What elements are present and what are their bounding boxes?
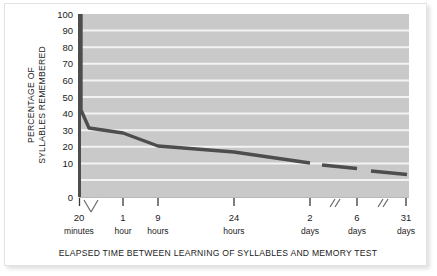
figure-container: 100 90 80 70 60 50 40 30 20 10 0 <box>0 0 437 276</box>
y-tick-label: 70 <box>62 58 73 69</box>
x-tick-values: 20 1 9 24 2 6 31 <box>74 212 412 223</box>
y-tick-label: 50 <box>62 92 73 103</box>
y-tick-labels: 100 90 80 70 60 50 40 30 20 10 0 <box>57 9 73 203</box>
x-tick-value: 6 <box>354 212 359 223</box>
x-tick-unit: hours <box>147 226 168 236</box>
y-tick-label: 60 <box>62 75 73 86</box>
axis-break-icon-2days-6days <box>330 199 340 207</box>
x-tick-unit: minutes <box>64 226 94 236</box>
x-tick-unit: days <box>348 226 366 236</box>
y-tick-label: 80 <box>62 42 73 53</box>
forgetting-curve-chart: 100 90 80 70 60 50 40 30 20 10 0 <box>0 0 437 276</box>
x-tick-value: 20 <box>74 212 85 223</box>
y-tick-label: 40 <box>62 108 73 119</box>
axis-break-marks <box>84 199 388 212</box>
x-tick-value: 2 <box>307 212 312 223</box>
x-tick-value: 9 <box>155 212 160 223</box>
x-tick-unit: days <box>301 226 319 236</box>
y-axis-title: PERCENTAGE OF SYLLABLES REMEMBERED <box>26 46 47 164</box>
y-tick-label: 10 <box>62 158 73 169</box>
y-tick-label: 90 <box>62 25 73 36</box>
x-tick-value: 24 <box>229 212 240 223</box>
x-tick-unit: hours <box>223 226 244 236</box>
y-tick-label: 30 <box>62 125 73 136</box>
x-tick-value: 1 <box>120 212 125 223</box>
y-tick-label: 0 <box>68 192 73 203</box>
plot-background <box>79 14 409 197</box>
axis-break-icon-minutes-hour <box>84 200 98 212</box>
x-tick-unit: days <box>397 226 415 236</box>
x-tick-units: minutes hour hours hours days days days <box>64 226 415 236</box>
y-tick-label: 100 <box>57 9 73 20</box>
x-tick-unit: hour <box>114 226 131 236</box>
x-axis-title: ELAPSED TIME BETWEEN LEARNING OF SYLLABL… <box>59 248 378 258</box>
axis-break-icon-6days-31days <box>378 199 388 207</box>
y-axis-title-line1: PERCENTAGE OF <box>26 67 36 143</box>
x-tick-value: 31 <box>401 212 412 223</box>
y-tick-label: 20 <box>62 141 73 152</box>
x-tick-marks <box>80 198 407 206</box>
y-axis-title-line2: SYLLABLES REMEMBERED <box>37 46 47 164</box>
